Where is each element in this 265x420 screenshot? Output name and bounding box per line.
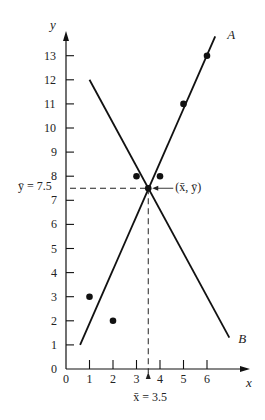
data-point — [133, 173, 140, 180]
arrow-up-icon — [146, 372, 151, 379]
y-tick-label: 9 — [51, 145, 57, 159]
y-tick-label: 7 — [51, 193, 57, 207]
x-tick-label: 6 — [204, 372, 210, 386]
y-tick-label: 6 — [51, 217, 57, 231]
y-tick-label: 4 — [51, 266, 57, 280]
y-tick-label: 12 — [44, 73, 56, 87]
line-b-label: B — [238, 331, 246, 346]
x-tick-label: 5 — [181, 372, 187, 386]
data-point — [157, 173, 164, 180]
y-axis-label: y — [48, 17, 56, 32]
data-point — [86, 293, 93, 300]
x-tick-label: 1 — [87, 372, 93, 386]
x-axis-label: x — [245, 375, 252, 390]
y-tick-label: 2 — [51, 314, 57, 328]
data-point — [180, 101, 187, 108]
line-b — [90, 80, 230, 338]
mean-point-label: (x̄, ȳ) — [175, 180, 201, 194]
line-a-label: A — [226, 27, 235, 42]
y-tick-label: 1 — [51, 338, 57, 352]
y-tick-label: 5 — [51, 242, 57, 256]
scatter-chart: 0123456 012345678910111213 x y A B (x̄, … — [0, 0, 265, 420]
arrow-left-icon — [152, 186, 158, 191]
x-axis-arrow-icon — [240, 366, 250, 372]
x-mean-label: x̄ = 3.5 — [133, 390, 167, 404]
y-tick-label: 0 — [51, 362, 57, 376]
y-ticks: 012345678910111213 — [44, 49, 74, 376]
data-point — [204, 52, 211, 59]
regression-lines — [80, 36, 229, 344]
x-ticks: 0123456 — [63, 360, 210, 386]
x-tick-label: 4 — [157, 372, 163, 386]
y-mean-label: ȳ = 7.5 — [18, 179, 52, 193]
y-tick-label: 10 — [44, 121, 56, 135]
y-tick-label: 3 — [51, 290, 57, 304]
y-axis-arrow-icon — [63, 31, 69, 41]
y-tick-label: 8 — [51, 169, 57, 183]
y-tick-label: 11 — [44, 97, 56, 111]
data-point — [110, 318, 117, 325]
x-tick-label: 0 — [63, 372, 69, 386]
y-tick-label: 13 — [44, 49, 56, 63]
mean-arrows — [146, 186, 174, 379]
x-tick-label: 3 — [134, 372, 140, 386]
x-tick-label: 2 — [110, 372, 116, 386]
data-point — [145, 185, 152, 192]
